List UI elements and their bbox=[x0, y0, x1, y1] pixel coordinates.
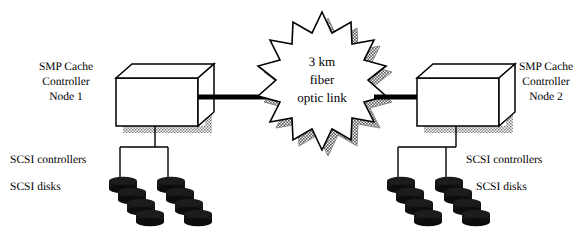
node-1-scsi-controllers-label: SCSI controllers bbox=[10, 154, 87, 166]
diagram-canvas: SMP Cache Controller Node 1 SCSI control… bbox=[0, 0, 581, 236]
node-1-scsi-bus bbox=[120, 126, 168, 183]
network-diagram: SMP Cache Controller Node 1 SCSI control… bbox=[0, 0, 581, 236]
disk bbox=[462, 210, 490, 226]
node-1-scsi-disks-label: SCSI disks bbox=[10, 181, 61, 193]
fiber-optic-link-group[interactable]: 3 km fiber optic link bbox=[258, 12, 392, 156]
node-1-label-line1: SMP Cache bbox=[39, 61, 93, 73]
node-1-group[interactable]: SMP Cache Controller Node 1 SCSI control… bbox=[10, 61, 268, 226]
node-1-label: SMP Cache Controller Node 1 bbox=[39, 61, 93, 103]
node-2-label-line1: SMP Cache bbox=[519, 61, 573, 73]
node-2-scsi-bus bbox=[398, 126, 456, 183]
node-2-label-line3: Node 2 bbox=[529, 91, 563, 103]
link-label-line1: 3 km bbox=[309, 54, 335, 69]
node-2-label: SMP Cache Controller Node 2 bbox=[519, 61, 573, 103]
disk bbox=[414, 210, 442, 226]
disk bbox=[184, 210, 212, 226]
node-1-disk-cluster[interactable] bbox=[109, 177, 212, 226]
link-label-line3: optic link bbox=[297, 90, 347, 105]
node-2-label-line2: Controller bbox=[522, 76, 569, 88]
link-label-line2: fiber bbox=[310, 72, 335, 87]
node-2-disk-cluster[interactable] bbox=[387, 177, 490, 226]
node-1-label-line2: Controller bbox=[42, 76, 89, 88]
node-2-box-front bbox=[417, 78, 499, 126]
node-2-scsi-controllers-label: SCSI controllers bbox=[466, 154, 543, 166]
node-1-box-front bbox=[116, 78, 198, 126]
node-2-group[interactable]: SMP Cache Controller Node 2 SCSI control… bbox=[374, 61, 573, 226]
node-2-scsi-disks-label: SCSI disks bbox=[476, 181, 527, 193]
node-1-label-line3: Node 1 bbox=[49, 91, 83, 103]
disk bbox=[136, 210, 164, 226]
